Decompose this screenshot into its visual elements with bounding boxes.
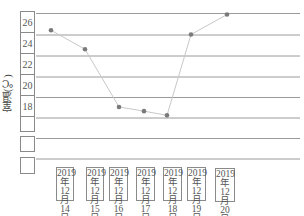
x-tick-month: 12月 [188,187,205,205]
x-tick-day: 14日 [57,205,73,216]
x-tick-label: 2019年12月18日 [163,167,182,201]
x-tick-label: 2019年12月15日 [86,167,104,201]
x-tick-month: 12月 [110,187,127,205]
x-tick-month: 12月 [164,187,181,205]
x-tick-day: 15日 [87,205,103,216]
x-tick-day: 20日 [216,206,234,216]
x-tick-day: 18日 [164,205,181,216]
data-point-marker [142,109,147,114]
x-tick-label: 2019年12月20日 [215,168,235,202]
x-tick-month: 12月 [216,188,234,206]
x-tick-day: 19日 [188,205,205,216]
data-point-marker [117,105,122,110]
x-tick-month: 12月 [57,187,73,205]
x-tick-month: 12月 [87,187,103,205]
data-point-marker [83,47,88,52]
room-temperature-chart: 室温(℃) 2624222018 2019年12月14日2019年12月15日2… [0,0,304,216]
series-line [51,15,227,116]
x-tick-label: 2019年12月14日 [56,167,74,201]
x-tick-label: 2019年12月19日 [187,167,206,201]
x-tick-day: 17日 [137,205,154,216]
data-point-marker [165,113,170,118]
x-tick-month: 12月 [137,187,154,205]
x-tick-label: 2019年12月16日 [109,167,128,201]
data-point-marker [189,32,194,37]
x-tick-label: 2019年12月17日 [136,167,155,201]
data-point-marker [225,12,230,17]
x-tick-day: 16日 [110,205,127,216]
data-point-marker [49,28,54,33]
